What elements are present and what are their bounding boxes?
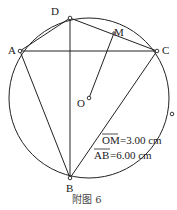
measure-ab-label: AB xyxy=(94,149,109,161)
measure-ab-value: =6.00 cm xyxy=(110,149,152,161)
label-a: A xyxy=(8,44,16,56)
label-b: B xyxy=(66,182,73,194)
measure-om-value: =3.00 cm xyxy=(120,134,162,146)
point-b[interactable] xyxy=(68,176,72,180)
label-c: C xyxy=(162,44,169,56)
geometry-figure: A D C M O B OM =3.00 cm AB =6.00 cm 附图 6 xyxy=(0,0,177,210)
point-on-circle[interactable] xyxy=(170,112,174,116)
segment-ad xyxy=(20,18,70,51)
label-m: M xyxy=(114,26,124,38)
segment-ab xyxy=(20,51,70,178)
measure-om-label: OM xyxy=(102,134,120,146)
label-o: O xyxy=(77,97,85,109)
figure-caption: 附图 6 xyxy=(72,193,102,205)
point-o[interactable] xyxy=(87,96,91,100)
segment-om xyxy=(89,33,114,98)
label-d: D xyxy=(51,5,59,17)
point-a[interactable] xyxy=(18,49,22,53)
point-d[interactable] xyxy=(68,16,72,20)
point-c[interactable] xyxy=(155,49,159,53)
